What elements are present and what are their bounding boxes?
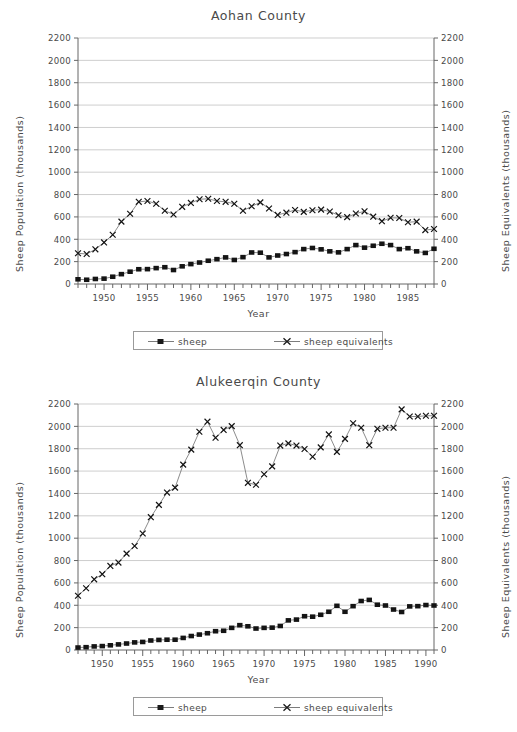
- y-tick-label-right: 800: [441, 556, 458, 566]
- data-point-square: [318, 612, 323, 617]
- x-tick-label: 1990: [414, 659, 437, 669]
- y-tick-label-right: 600: [441, 212, 458, 222]
- y-tick-label-right: 1800: [441, 444, 464, 454]
- series-markers-sheep-equivalents: [75, 196, 437, 257]
- x-tick-label: 1960: [179, 293, 202, 303]
- data-point-square: [275, 253, 280, 258]
- y-tick-label-right: 600: [441, 578, 458, 588]
- y-tick-label-left: 1000: [48, 167, 71, 177]
- data-point-square: [334, 604, 339, 609]
- data-point-square: [261, 626, 266, 631]
- data-point-square: [399, 610, 404, 615]
- data-point-square: [223, 255, 228, 260]
- data-point-square: [391, 607, 396, 612]
- y-tick-label-left: 1200: [48, 145, 71, 155]
- y-tick-label-right: 2000: [441, 56, 464, 66]
- legend-cross-icon: [274, 336, 300, 347]
- data-point-cross: [326, 432, 332, 438]
- data-point-cross: [164, 490, 170, 496]
- x-axis-label: Year: [0, 308, 517, 319]
- data-point-square: [132, 640, 137, 645]
- data-point-cross: [205, 419, 211, 425]
- data-point-cross: [119, 219, 125, 225]
- y-tick-label-left: 1400: [48, 123, 71, 133]
- y-tick-label-left: 600: [54, 212, 71, 222]
- data-point-square: [294, 617, 299, 622]
- legend-square-icon: [148, 702, 174, 713]
- data-point-cross: [188, 447, 194, 453]
- legend-label: sheep: [178, 337, 207, 347]
- data-point-square: [414, 249, 419, 254]
- y-tick-label-right: 1200: [441, 511, 464, 521]
- y-tick-label-right: 800: [441, 190, 458, 200]
- data-point-cross: [294, 443, 300, 449]
- data-point-cross: [245, 480, 251, 486]
- data-point-square: [388, 243, 393, 248]
- x-tick-label: 1970: [253, 659, 276, 669]
- data-point-square: [302, 614, 307, 619]
- data-point-cross: [249, 203, 255, 209]
- y-tick-label-left: 400: [54, 601, 71, 611]
- legend: sheepsheep equivalents: [133, 331, 383, 350]
- data-point-cross: [231, 201, 237, 207]
- data-point-cross: [148, 514, 154, 520]
- data-point-square: [326, 609, 331, 614]
- y-tick-label-right: 200: [441, 257, 458, 267]
- y-tick-label-left: 800: [54, 190, 71, 200]
- data-point-square: [350, 604, 355, 609]
- legend-label: sheep equivalents: [304, 337, 393, 347]
- data-point-cross: [99, 571, 105, 577]
- data-point-square: [301, 247, 306, 252]
- data-point-cross: [180, 462, 186, 468]
- x-tick-label: 1975: [310, 293, 333, 303]
- series-markers-sheep-equivalents: [75, 406, 437, 598]
- data-point-square: [124, 641, 129, 646]
- y-tick-label-left: 200: [54, 623, 71, 633]
- x-tick-label: 1975: [293, 659, 316, 669]
- data-point-square: [197, 260, 202, 265]
- legend-label: sheep equivalents: [304, 703, 393, 713]
- data-point-cross: [358, 425, 364, 431]
- y-tick-label-left: 2200: [48, 399, 71, 409]
- data-point-square: [229, 626, 234, 631]
- y-tick-label-left: 2200: [48, 33, 71, 43]
- y-tick-label-left: 800: [54, 556, 71, 566]
- data-point-cross: [283, 210, 289, 216]
- y-tick-label-right: 200: [441, 623, 458, 633]
- legend: sheepsheep equivalents: [133, 697, 383, 716]
- data-point-square: [310, 246, 315, 251]
- y-tick-label-right: 1200: [441, 145, 464, 155]
- chart-panel-alukeerqin: Alukeerqin County Sheep Population (thou…: [0, 366, 517, 732]
- data-point-cross: [171, 212, 177, 218]
- data-point-cross: [127, 211, 133, 217]
- data-point-square: [206, 258, 211, 263]
- data-point-cross: [153, 201, 159, 207]
- data-point-square: [189, 634, 194, 639]
- data-point-cross: [172, 485, 178, 491]
- legend-label: sheep: [178, 703, 207, 713]
- x-tick-label: 1950: [91, 659, 114, 669]
- data-point-square: [140, 640, 145, 645]
- data-point-square: [342, 609, 347, 614]
- data-point-cross: [366, 442, 372, 448]
- y-tick-label-left: 2000: [48, 422, 71, 432]
- data-point-cross: [350, 420, 356, 426]
- data-point-square: [383, 603, 388, 608]
- data-point-square: [148, 638, 153, 643]
- data-point-square: [127, 269, 132, 274]
- data-point-square: [278, 624, 283, 629]
- data-point-square: [415, 604, 420, 609]
- x-tick-label: 1965: [223, 293, 246, 303]
- y-tick-label-right: 2000: [441, 422, 464, 432]
- data-point-square: [83, 645, 88, 650]
- y-tick-label-left: 0: [65, 645, 71, 655]
- data-point-square: [91, 644, 96, 649]
- data-point-square: [145, 267, 150, 272]
- data-point-cross: [336, 212, 342, 218]
- data-point-cross: [92, 246, 98, 252]
- data-point-square: [336, 250, 341, 255]
- y-tick-label-right: 400: [441, 235, 458, 245]
- data-point-square: [358, 599, 363, 604]
- data-point-square: [172, 637, 177, 642]
- y-tick-label-left: 0: [65, 279, 71, 289]
